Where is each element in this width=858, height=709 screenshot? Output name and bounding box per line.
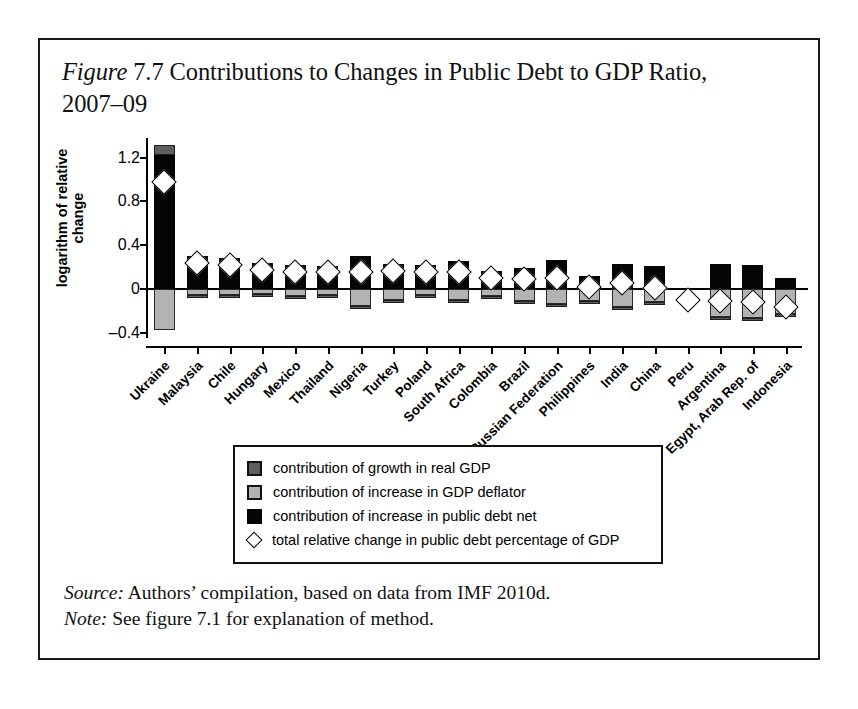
- diamond-marker-icon: [246, 532, 263, 549]
- x-tick-mark: [230, 346, 232, 354]
- bar-segment-real-gdp-growth: [219, 295, 240, 298]
- bar-segment-real-gdp-growth: [448, 300, 469, 303]
- bar-segment-public-debt-net: [710, 264, 731, 289]
- bar-segment-gdp-deflator: [383, 289, 404, 300]
- x-tick-mark: [753, 346, 755, 354]
- legend-item-label: contribution of growth in real GDP: [273, 460, 491, 476]
- bar-group[interactable]: [775, 138, 796, 338]
- bar-segment-gdp-deflator: [448, 289, 469, 300]
- bar-segment-gdp-deflator: [219, 289, 240, 296]
- legend-item-label: contribution of increase in GDP deflator: [273, 484, 526, 500]
- bar-group[interactable]: [579, 138, 600, 338]
- legend-item[interactable]: contribution of increase in GDP deflator: [247, 480, 649, 504]
- bar-segment-real-gdp-growth: [612, 307, 633, 310]
- dark-gray-square-icon: [247, 461, 262, 476]
- legend-item[interactable]: contribution of increase in public debt …: [247, 504, 649, 528]
- y-tick-label: 1.2: [100, 149, 140, 167]
- x-tick-mark: [491, 346, 493, 354]
- x-tick-mark: [393, 346, 395, 354]
- x-tick-mark: [524, 346, 526, 354]
- bar-segment-real-gdp-growth: [481, 296, 502, 299]
- x-tick-mark: [262, 346, 264, 354]
- bar-segment-gdp-deflator: [154, 289, 175, 331]
- figure-title: Figure 7.7 Contributions to Changes in P…: [62, 56, 762, 120]
- bar-group[interactable]: [612, 138, 633, 338]
- bar-segment-real-gdp-growth: [154, 145, 175, 156]
- x-tick-mark: [622, 346, 624, 354]
- bar-group[interactable]: [285, 138, 306, 338]
- bar-segment-real-gdp-growth: [644, 302, 665, 305]
- y-tick-label: –0.4: [100, 324, 140, 342]
- bar-segment-real-gdp-growth: [710, 317, 731, 320]
- legend-item[interactable]: total relative change in public debt per…: [247, 528, 649, 552]
- x-tick-mark: [361, 346, 363, 354]
- bar-group[interactable]: [546, 138, 567, 338]
- figure-number-value: 7.7: [133, 58, 163, 85]
- legend-item-label: contribution of increase in public debt …: [273, 508, 537, 524]
- chart-plot-area: logarithm of relative change 1.20.80.40–…: [102, 138, 802, 338]
- black-square-icon: [247, 509, 262, 524]
- bar-segment-real-gdp-growth: [252, 294, 273, 297]
- bar-segment-gdp-deflator: [350, 289, 371, 306]
- bar-group[interactable]: [252, 138, 273, 338]
- x-tick-mark: [786, 346, 788, 354]
- x-tick-mark: [197, 346, 199, 354]
- chart-legend: contribution of growth in real GDPcontri…: [233, 445, 663, 564]
- bar-group[interactable]: [514, 138, 535, 338]
- light-gray-square-icon: [247, 485, 262, 500]
- bar-segment-public-debt-net: [742, 265, 763, 289]
- bar-group[interactable]: [481, 138, 502, 338]
- bar-segment-real-gdp-growth: [350, 306, 371, 309]
- x-axis-line: [146, 346, 802, 348]
- bar-segment-real-gdp-growth: [383, 300, 404, 303]
- bar-segment-real-gdp-growth: [285, 296, 306, 299]
- x-tick-mark: [164, 346, 166, 354]
- bar-group[interactable]: [219, 138, 240, 338]
- bar-segment-gdp-deflator: [285, 289, 306, 297]
- legend-item[interactable]: contribution of growth in real GDP: [247, 456, 649, 480]
- y-axis-ticks: 1.20.80.40–0.4: [94, 138, 140, 338]
- bars-layer: [148, 138, 802, 338]
- bar-group[interactable]: [317, 138, 338, 338]
- x-tick-label: China: [626, 358, 663, 395]
- y-tick-mark: [140, 200, 147, 202]
- bar-group[interactable]: [710, 138, 731, 338]
- x-tick-label: India: [598, 358, 631, 391]
- x-tick-mark: [426, 346, 428, 354]
- x-tick-mark: [589, 346, 591, 354]
- x-tick-mark: [459, 346, 461, 354]
- bar-segment-real-gdp-growth: [317, 295, 338, 298]
- x-tick-mark: [328, 346, 330, 354]
- bar-segment-real-gdp-growth: [546, 304, 567, 307]
- y-tick-label: 0.4: [100, 236, 140, 254]
- source-line: Source: Authors’ compilation, based on d…: [64, 580, 794, 606]
- figure-frame: Figure 7.7 Contributions to Changes in P…: [38, 38, 820, 660]
- bar-segment-real-gdp-growth: [579, 301, 600, 304]
- bar-group[interactable]: [677, 138, 698, 338]
- y-tick-label: 0: [100, 280, 140, 298]
- y-tick-mark: [140, 288, 147, 290]
- bar-group[interactable]: [415, 138, 436, 338]
- bar-segment-gdp-deflator: [187, 289, 208, 296]
- source-label: Source:: [64, 582, 124, 603]
- bar-group[interactable]: [383, 138, 404, 338]
- bar-segment-real-gdp-growth: [187, 295, 208, 298]
- figure-footnotes: Source: Authors’ compilation, based on d…: [64, 580, 794, 631]
- bar-segment-real-gdp-growth: [514, 301, 535, 304]
- note-text: See figure 7.1 for explanation of method…: [107, 608, 434, 629]
- bar-segment-gdp-deflator: [317, 289, 338, 296]
- bar-group[interactable]: [644, 138, 665, 338]
- bar-group[interactable]: [742, 138, 763, 338]
- x-tick-mark: [720, 346, 722, 354]
- bar-segment-gdp-deflator: [546, 289, 567, 304]
- bar-group[interactable]: [187, 138, 208, 338]
- bar-group[interactable]: [448, 138, 469, 338]
- y-tick-mark: [140, 244, 147, 246]
- bar-group[interactable]: [154, 138, 175, 338]
- legend-item-label: total relative change in public debt per…: [272, 532, 619, 548]
- x-tick-mark: [557, 346, 559, 354]
- source-text: Authors’ compilation, based on data from…: [124, 582, 550, 603]
- y-tick-label: 0.8: [100, 192, 140, 210]
- y-tick-mark: [140, 157, 147, 159]
- bar-group[interactable]: [350, 138, 371, 338]
